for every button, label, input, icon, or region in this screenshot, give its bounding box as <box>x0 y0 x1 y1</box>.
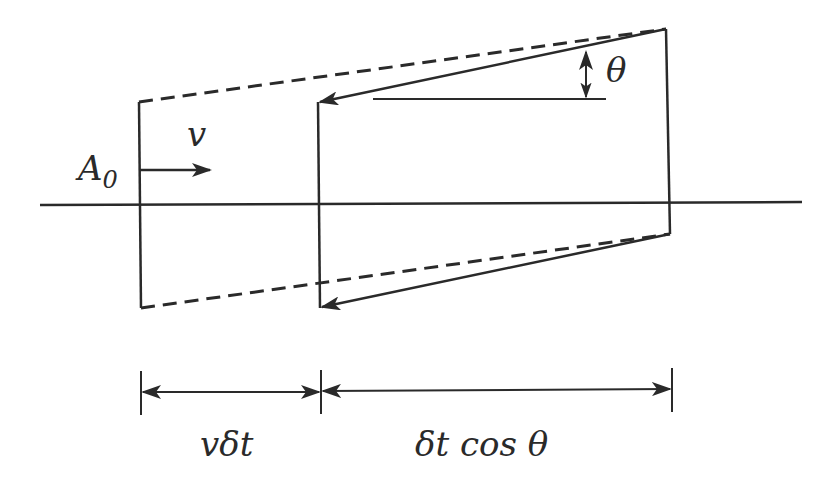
dimension-vdt-label: vδt <box>200 424 254 464</box>
lower-slanted-arrow <box>322 234 670 307</box>
dimension-dtcos-arrow <box>323 389 670 391</box>
axis-line <box>40 202 802 205</box>
area-label: A0 <box>75 148 118 194</box>
diagram-canvas: A0 v θ vδt δt cos θ <box>0 0 826 480</box>
displaced-face-line <box>318 102 320 308</box>
angle-label: θ <box>606 50 626 90</box>
velocity-label: v <box>187 114 206 154</box>
initial-face-line <box>139 102 141 308</box>
diagram-svg: A0 v θ vδt δt cos θ <box>0 0 826 480</box>
dimension-dtcos-label: δt cos θ <box>415 424 548 464</box>
lower-dashed-edge <box>141 234 670 308</box>
